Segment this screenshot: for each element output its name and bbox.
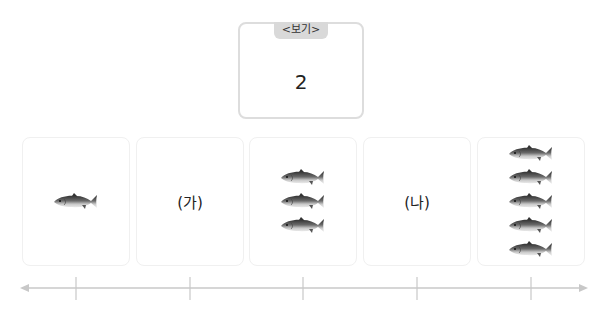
fish-icon xyxy=(279,168,327,187)
card-label-ga: (가) xyxy=(177,191,203,212)
card-2: (가) xyxy=(136,137,244,266)
left-arrow-icon xyxy=(20,284,29,292)
example-tab: <보기> xyxy=(274,22,328,39)
example-value: 2 xyxy=(240,70,362,94)
card-1 xyxy=(22,137,130,266)
fish-icon xyxy=(52,192,100,211)
fish-icon xyxy=(507,168,555,187)
card-label-na: (나) xyxy=(404,191,430,212)
fish-icon xyxy=(279,216,327,235)
fish-icon xyxy=(507,240,555,259)
fish-icon xyxy=(507,216,555,235)
number-line xyxy=(0,270,607,310)
card-3 xyxy=(249,137,357,266)
right-arrow-icon xyxy=(579,284,588,292)
fish-icon xyxy=(279,192,327,211)
example-box: <보기> 2 xyxy=(238,22,364,119)
fish-icon xyxy=(507,192,555,211)
fish-icon xyxy=(507,144,555,163)
card-5 xyxy=(477,137,585,266)
card-4: (나) xyxy=(363,137,471,266)
